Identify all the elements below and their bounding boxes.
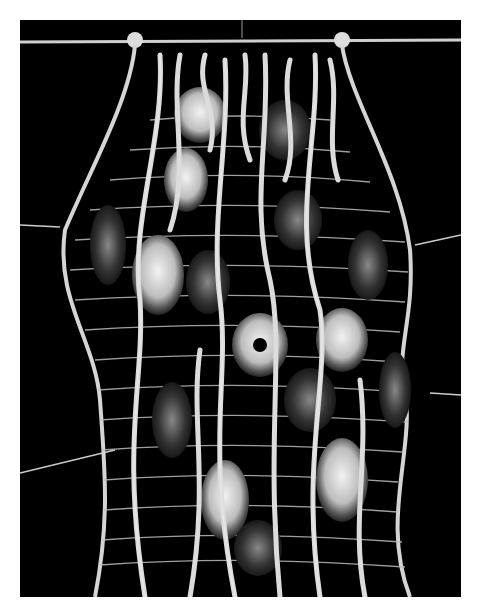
artwork-photo [20, 20, 461, 597]
woven-sculpture [20, 20, 461, 597]
hanging-rod [20, 40, 461, 42]
